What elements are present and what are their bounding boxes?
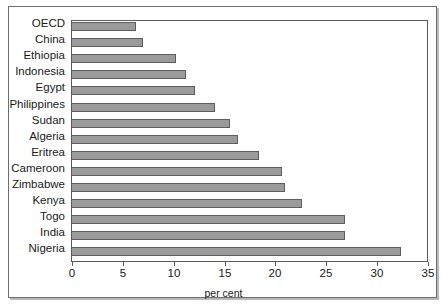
bar (72, 199, 302, 208)
bar (72, 86, 195, 95)
axis-tick (174, 262, 175, 266)
axis-tick-label: 5 (120, 267, 126, 279)
bar (72, 183, 285, 192)
category-label: Egypt (36, 81, 65, 93)
category-label: Sudan (32, 114, 65, 126)
axis-tick (275, 262, 276, 266)
bar (72, 135, 238, 144)
bar (72, 151, 259, 160)
axis-tick-label: 25 (320, 267, 333, 279)
axis-tick-label: 30 (371, 267, 384, 279)
bar (72, 103, 215, 112)
category-label: OECD (32, 17, 65, 29)
category-label: Togo (40, 210, 65, 222)
bars-layer (72, 21, 428, 262)
axis-tick-label: 20 (269, 267, 282, 279)
bar-chart: OECDChinaEthiopiaIndonesiaEgyptPhilippin… (0, 0, 447, 308)
category-label: Eritrea (31, 146, 65, 158)
axis-tick (326, 262, 327, 266)
category-label: Ethiopia (23, 49, 65, 61)
bar (72, 247, 401, 256)
bar (72, 167, 282, 176)
axis-tick-label: 35 (422, 267, 435, 279)
bar (72, 119, 230, 128)
category-label: Cameroon (11, 162, 65, 174)
category-label: Kenya (32, 194, 65, 206)
axis-tick (225, 262, 226, 266)
axis-tick-label: 0 (69, 267, 75, 279)
bar (72, 38, 143, 47)
axis-tick (428, 262, 429, 266)
bar (72, 54, 176, 63)
x-axis-title: per cent (0, 287, 447, 299)
category-label: Algeria (29, 130, 65, 142)
axis-tick-label: 15 (219, 267, 232, 279)
axis-tick (377, 262, 378, 266)
category-label: Philippines (9, 98, 65, 110)
axis-tick-label: 10 (168, 267, 181, 279)
category-label: China (35, 33, 65, 45)
bar (72, 215, 345, 224)
chart-screenshot: OECDChinaEthiopiaIndonesiaEgyptPhilippin… (0, 0, 447, 308)
axis-tick (123, 262, 124, 266)
bar (72, 70, 186, 79)
category-label: Nigeria (29, 242, 65, 254)
category-axis-labels: OECDChinaEthiopiaIndonesiaEgyptPhilippin… (0, 20, 68, 262)
axis-tick (72, 262, 73, 266)
bar (72, 22, 136, 31)
category-label: Zimbabwe (12, 178, 65, 190)
category-label: Indonesia (15, 65, 65, 77)
bar (72, 231, 345, 240)
category-label: India (40, 226, 65, 238)
